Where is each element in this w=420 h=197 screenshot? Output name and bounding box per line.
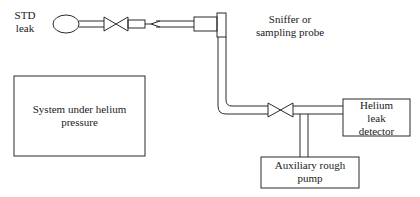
std-leak-reservoir	[53, 15, 79, 33]
valve-2-icon	[268, 103, 293, 117]
system-label: System under helium pressure	[14, 103, 145, 129]
probe-end-cap	[217, 13, 226, 37]
detector-label-line3: detector	[343, 125, 410, 138]
pump-label-line2: pump	[261, 172, 359, 185]
helium-leak-detector-label: Helium leak detector	[343, 99, 410, 138]
probe-inlet-tube	[128, 20, 145, 28]
sampling-hose	[218, 37, 268, 114]
pipe-to-pump	[300, 114, 308, 157]
std-leak-label-line1: STD	[10, 9, 40, 22]
sniffer-probe-label: Sniffer or sampling probe	[240, 13, 340, 39]
auxiliary-rough-pump-label: Auxiliary rough pump	[261, 159, 359, 185]
std-leak-label: STD leak	[10, 9, 40, 35]
detector-label-line2: leak	[343, 112, 410, 125]
sniffer-probe-label-line1: Sniffer or	[240, 13, 340, 26]
probe-body	[156, 21, 194, 27]
valve-1-icon	[104, 17, 128, 31]
std-leak-label-line2: leak	[10, 22, 40, 35]
pipe-valve-to-detector	[293, 106, 343, 114]
system-label-line2: pressure	[14, 116, 145, 129]
pump-label-line1: Auxiliary rough	[261, 159, 359, 172]
detector-label-line1: Helium	[343, 99, 410, 112]
system-label-line1: System under helium	[14, 103, 145, 116]
leak-detection-diagram: STD leak Sniffer or sampling probe Syste…	[0, 0, 420, 197]
pipe-leak-to-valve	[79, 21, 104, 27]
probe-tip-icon	[145, 21, 160, 27]
sniffer-probe-label-line2: sampling probe	[240, 26, 340, 39]
probe-handle	[194, 17, 217, 31]
